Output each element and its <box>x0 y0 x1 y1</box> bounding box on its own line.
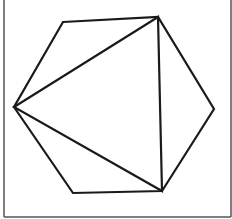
inscribed-triangle <box>14 17 162 191</box>
diagram-canvas <box>0 0 232 219</box>
frame-border <box>4 0 231 217</box>
hexagon-triangle-figure <box>0 0 232 219</box>
